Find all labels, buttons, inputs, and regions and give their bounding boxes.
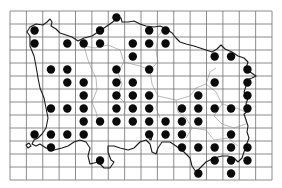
record-dot xyxy=(129,91,137,99)
parish-boundary xyxy=(84,45,126,114)
record-dot xyxy=(96,156,104,164)
record-dot xyxy=(145,91,153,99)
record-dot xyxy=(145,39,153,47)
record-dot xyxy=(194,104,202,112)
grid xyxy=(10,11,272,180)
record-dot xyxy=(161,117,169,125)
record-dot xyxy=(194,143,202,151)
record-dot xyxy=(63,104,71,112)
record-dot xyxy=(79,117,87,125)
record-dot xyxy=(227,143,235,151)
record-dot xyxy=(145,26,153,34)
record-dot xyxy=(194,117,202,125)
record-dot xyxy=(96,117,104,125)
record-dot xyxy=(79,104,87,112)
record-dot xyxy=(210,143,218,151)
record-dot xyxy=(47,104,55,112)
record-dot xyxy=(145,65,153,73)
record-dot xyxy=(243,65,251,73)
record-dot xyxy=(194,169,202,177)
record-dot xyxy=(178,117,186,125)
record-dot xyxy=(129,117,137,125)
record-dot xyxy=(63,65,71,73)
record-dot xyxy=(145,130,153,138)
record-dot xyxy=(112,104,120,112)
record-dot xyxy=(63,78,71,86)
record-dot xyxy=(63,39,71,47)
record-dot xyxy=(129,104,137,112)
record-dot xyxy=(79,39,87,47)
record-dot xyxy=(129,78,137,86)
record-dot xyxy=(227,104,235,112)
record-dot xyxy=(227,169,235,177)
distribution-map xyxy=(0,0,282,188)
record-dot xyxy=(112,78,120,86)
record-dot xyxy=(243,104,251,112)
record-dot xyxy=(112,65,120,73)
record-dot xyxy=(178,130,186,138)
record-dot xyxy=(63,130,71,138)
parish-boundary xyxy=(124,28,165,70)
record-dot xyxy=(227,130,235,138)
record-dot xyxy=(210,78,218,86)
record-dot xyxy=(194,91,202,99)
record-dot xyxy=(47,65,55,73)
record-dot xyxy=(210,104,218,112)
record-dot xyxy=(112,91,120,99)
record-dot xyxy=(210,156,218,164)
record-dot xyxy=(243,91,251,99)
record-dot xyxy=(96,39,104,47)
record-dot xyxy=(145,117,153,125)
record-dot xyxy=(243,156,251,164)
record-dot xyxy=(210,52,218,60)
record-dot xyxy=(227,52,235,60)
coastline xyxy=(27,17,256,172)
record-dot xyxy=(243,78,251,86)
record-dot xyxy=(178,104,186,112)
record-dot xyxy=(112,117,120,125)
record-dot xyxy=(178,143,186,151)
record-dot xyxy=(161,39,169,47)
record-dot xyxy=(30,26,38,34)
record-dot xyxy=(112,13,120,21)
record-dot xyxy=(129,52,137,60)
record-dot xyxy=(47,130,55,138)
record-dot xyxy=(79,91,87,99)
record-dot xyxy=(96,26,104,34)
parish-boundary xyxy=(158,68,216,100)
record-dot xyxy=(145,104,153,112)
record-dot xyxy=(243,143,251,151)
record-dot xyxy=(79,78,87,86)
record-dot xyxy=(79,130,87,138)
record-dot xyxy=(30,130,38,138)
record-dot xyxy=(47,143,55,151)
record-dot xyxy=(30,39,38,47)
record-dot xyxy=(129,39,137,47)
record-dot xyxy=(161,26,169,34)
record-dot xyxy=(227,156,235,164)
record-dot xyxy=(161,130,169,138)
